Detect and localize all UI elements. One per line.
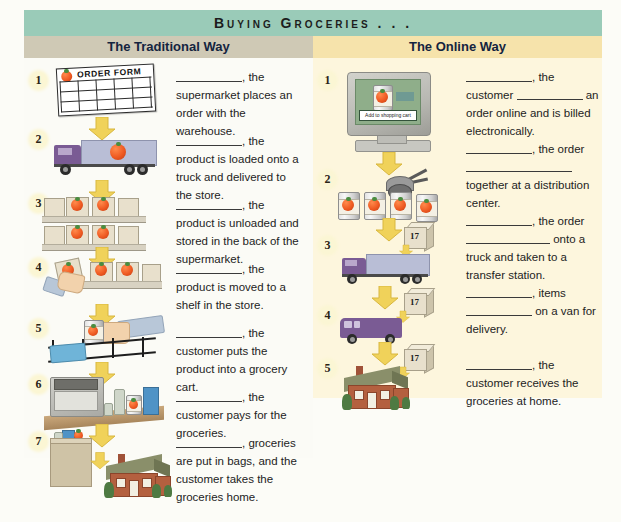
- order-form-grid: [59, 77, 153, 114]
- traditional-paragraph-3: , the product is unloaded and stored in …: [176, 196, 304, 268]
- online-paragraph-3: , the order onto a truck and taken to a …: [466, 212, 602, 284]
- online-flow-arrow-4: [371, 342, 399, 366]
- online-step-number-5: 5: [319, 360, 336, 377]
- column-header-traditional-label: The Traditional Way: [24, 36, 313, 58]
- column-header-online: The Online Way: [313, 36, 602, 58]
- online-paragraph-5: , the customer receives the groceries at…: [466, 356, 602, 410]
- answer-blank[interactable]: [466, 286, 532, 298]
- answer-blank[interactable]: [466, 358, 532, 370]
- robot-picker-with-cans-illustration: [330, 172, 450, 220]
- answer-blank[interactable]: [176, 390, 242, 402]
- delivery-truck-illustration: [48, 138, 158, 176]
- order-form-illustration: ORDER FORM: [57, 66, 157, 116]
- page-banner: Buying Groceries . . .: [24, 10, 602, 36]
- house-delivery-illustration: [340, 366, 412, 412]
- answer-blank[interactable]: [176, 70, 242, 82]
- traditional-paragraph-1: , the supermarket places an order with t…: [176, 68, 304, 140]
- answer-blank[interactable]: [517, 88, 583, 100]
- stocked-shelves-illustration: [42, 193, 162, 251]
- online-flow-arrow-2: [375, 218, 403, 242]
- answer-blank[interactable]: [466, 142, 532, 154]
- page-title: Buying Groceries . . .: [24, 10, 602, 36]
- package-label: 17: [410, 231, 419, 241]
- column-header-online-label: The Online Way: [313, 36, 602, 58]
- traditional-paragraph-4: , the product is moved to a shelf in the…: [176, 260, 304, 314]
- answer-blank[interactable]: [466, 304, 532, 316]
- package-label: 17: [410, 297, 419, 307]
- online-step-number-4: 4: [319, 307, 336, 324]
- traditional-paragraph-2: , the product is loaded onto a truck and…: [176, 132, 304, 204]
- traditional-paragraph-5: , the customer puts the product into a g…: [176, 324, 304, 396]
- hand-shelving-product-illustration: [44, 255, 164, 305]
- traditional-paragraph-7: , groceries are put in bags, and the cus…: [176, 434, 304, 506]
- step-number-2: 2: [30, 131, 47, 148]
- column-header-traditional: The Traditional Way: [24, 36, 313, 58]
- answer-blank[interactable]: [176, 134, 242, 146]
- online-flow-arrow-3: [371, 286, 399, 310]
- house-illustration: [102, 454, 174, 500]
- step-number-7: 7: [30, 433, 47, 450]
- grocery-bag-and-house-illustration: [46, 430, 176, 500]
- package-label: 17: [410, 353, 419, 363]
- answer-blank[interactable]: [176, 262, 242, 274]
- answer-blank[interactable]: [466, 160, 506, 172]
- step-number-1: 1: [30, 72, 47, 89]
- answer-blank[interactable]: [176, 326, 242, 338]
- truck-with-package-illustration: [336, 252, 436, 286]
- answer-blank[interactable]: [466, 70, 532, 82]
- page-root: Buying Groceries . . . The Traditional W…: [0, 0, 621, 522]
- answer-blank[interactable]: [176, 198, 242, 210]
- hand-placing-item-in-cart-illustration: [44, 318, 164, 366]
- answer-blank[interactable]: [466, 232, 550, 244]
- online-step-number-1: 1: [319, 72, 336, 89]
- computer-order-screen-illustration: Add to shopping cart: [347, 72, 443, 156]
- answer-blank[interactable]: [466, 214, 532, 226]
- cash-register-illustration: [44, 375, 164, 427]
- online-paragraph-1: , the customer an order online and is bi…: [466, 68, 602, 140]
- online-paragraph-2: , the order together at a distribution c…: [466, 140, 602, 212]
- add-to-shopping-cart-button[interactable]: Add to shopping cart: [359, 110, 417, 121]
- step-number-column-online: 1 2 3 4 5: [313, 58, 349, 398]
- answer-blank[interactable]: [176, 436, 242, 448]
- answer-blank[interactable]: [506, 160, 572, 172]
- online-paragraph-4: , items on a van for delivery.: [466, 284, 602, 338]
- online-step-number-3: 3: [319, 237, 336, 254]
